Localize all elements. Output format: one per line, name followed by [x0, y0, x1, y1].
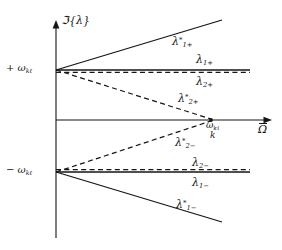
eigenvalue-diagram: ℑ{λ} Ω + ωkℓ − ωkℓ ωkℓ k λ*1+ λ1+ λ2+ λ*…: [0, 0, 282, 250]
lambda-subscript: 2−: [199, 162, 209, 170]
lambda-subscript: 1−: [186, 204, 196, 212]
label-lambda-star-2-minus: λ*2−: [175, 137, 195, 150]
tick-sign-plus: +: [6, 62, 14, 73]
label-lambda-2-plus: λ2+: [196, 76, 213, 89]
lambda-subscript: 1−: [199, 182, 209, 190]
lambda-base: λ: [192, 176, 199, 189]
label-lambda-star-1-minus: λ*1−: [176, 199, 196, 212]
label-lambda-star-2-plus: λ*2+: [178, 93, 198, 106]
lambda-base: λ: [196, 75, 203, 88]
lambda-base: λ: [175, 136, 182, 149]
x-axis-label-text: Ω: [258, 124, 267, 135]
tick-omega-subscript-minus: kℓ: [26, 169, 32, 176]
lambda-subscript: 2+: [203, 81, 213, 89]
crossing-point-label: ωkℓ k: [206, 121, 219, 140]
lambda-base: λ: [196, 53, 203, 66]
tick-omega-subscript-plus: kℓ: [26, 67, 32, 74]
y-axis-label-text: ℑ{λ}: [61, 14, 90, 27]
lambda-base: λ: [178, 92, 185, 105]
y-axis-label: ℑ{λ}: [61, 15, 90, 26]
x-axis-label: Ω: [258, 124, 267, 135]
tick-label-plus-omega-kl: + ωkℓ: [6, 63, 32, 74]
plot-canvas: [0, 0, 282, 250]
lambda-base: λ: [172, 35, 179, 48]
label-lambda-1-plus: λ1+: [196, 54, 213, 67]
lambda-subscript: 1+: [203, 59, 213, 67]
label-lambda-2-minus: λ2−: [192, 157, 209, 170]
label-lambda-1-minus: λ1−: [192, 177, 209, 190]
tick-omega-symbol-minus: ω: [18, 164, 26, 175]
label-lambda-star-1-plus: λ*1+: [172, 36, 192, 49]
crossing-denominator: k: [210, 130, 215, 140]
lambda-subscript: 2−: [185, 142, 195, 150]
tick-sign-minus: −: [6, 164, 14, 175]
lambda-base: λ: [176, 198, 183, 211]
y-axis: [53, 20, 60, 238]
lambda-subscript: 2+: [188, 98, 198, 106]
tick-label-minus-omega-kl: − ωkℓ: [6, 165, 32, 176]
lambda-subscript: 1+: [182, 41, 192, 49]
lambda-base: λ: [192, 156, 199, 169]
x-axis: [56, 117, 272, 123]
tick-omega-symbol-plus: ω: [18, 62, 26, 73]
